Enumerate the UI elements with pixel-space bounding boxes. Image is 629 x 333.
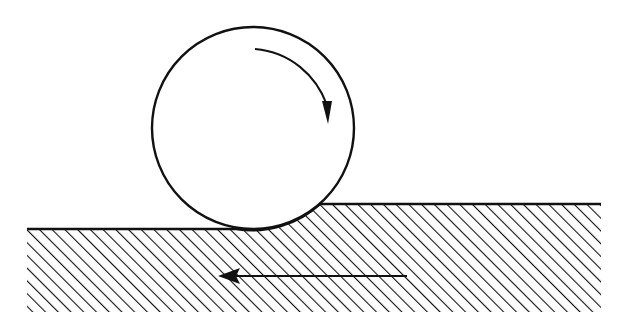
- physics-diagram: [0, 0, 629, 333]
- hatched-ground: [27, 200, 601, 312]
- ball: [152, 27, 354, 229]
